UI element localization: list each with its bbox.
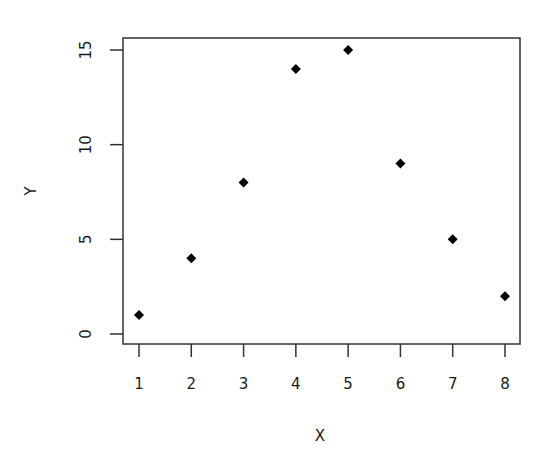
x-tick-label: 6 [396,375,406,393]
y-tick-label: 10 [77,135,95,154]
data-point-marker [186,253,196,263]
data-point-marker [395,159,405,169]
y-tick-label: 15 [77,40,95,59]
data-point-marker [500,291,510,301]
plot-frame [123,38,520,344]
y-tick-label: 0 [77,329,95,339]
y-tick-label: 5 [77,235,95,245]
x-tick-label: 3 [239,375,249,393]
y-axis: 051015 [77,40,123,338]
data-point-marker [134,310,144,320]
x-axis-title: X [315,427,325,445]
x-tick-label: 5 [343,375,353,393]
data-point-marker [291,64,301,74]
data-point-marker [343,45,353,55]
data-point-marker [239,178,249,188]
x-tick-label: 4 [291,375,301,393]
data-point-marker [448,234,458,244]
scatter-plot: 051015 12345678 X Y [0,0,547,468]
x-tick-label: 2 [187,375,197,393]
x-tick-label: 1 [134,375,144,393]
y-axis-title: Y [22,186,40,197]
x-tick-label: 8 [500,375,510,393]
x-axis: 12345678 [134,344,510,393]
x-tick-label: 7 [448,375,458,393]
data-points [134,45,510,320]
